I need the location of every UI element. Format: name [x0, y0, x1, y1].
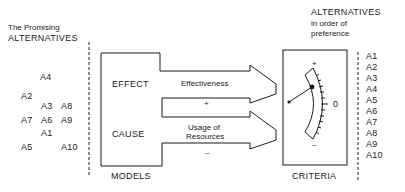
ranked-item-5: A5 — [366, 96, 378, 105]
alternative-a5: A5 — [21, 143, 33, 152]
alternative-a10: A10 — [61, 143, 78, 152]
gauge-minus-label: – — [312, 141, 316, 149]
models-box-and-arrows — [101, 53, 276, 166]
alternative-a2: A2 — [21, 92, 33, 101]
gauge-scale — [305, 68, 323, 139]
alternative-a4: A4 — [40, 73, 52, 82]
ranked-title-line3: preference — [311, 30, 349, 38]
ranked-item-2: A2 — [366, 63, 378, 72]
ranked-item-6: A6 — [366, 107, 378, 116]
ranked-title-line2: in order of — [311, 20, 347, 28]
cause-label: CAUSE — [112, 130, 145, 139]
alternative-a9: A9 — [61, 116, 73, 125]
usage-label-line2: Resources — [186, 133, 224, 141]
effect-label: EFFECT — [112, 80, 149, 89]
alternative-a3: A3 — [41, 102, 53, 111]
models-caption: MODELS — [111, 172, 151, 181]
promising-title-line2: ALTERNATIVES — [8, 34, 78, 43]
needle-pivot — [287, 100, 290, 103]
gauge-plus-label: + — [312, 60, 317, 68]
usage-label-line1: Usage of — [188, 124, 220, 132]
ranked-item-1: A1 — [366, 52, 378, 61]
alternative-a6: A6 — [41, 116, 53, 125]
ranked-title-line1: ALTERNATIVES — [311, 8, 381, 17]
effectiveness-label: Effectiveness — [181, 80, 228, 88]
gauge-zero-label: 0 — [333, 100, 338, 109]
needle-tip — [310, 85, 315, 90]
ranked-item-10: A10 — [366, 151, 383, 160]
gauge-ticks — [316, 74, 328, 134]
ranked-item-3: A3 — [366, 74, 378, 83]
alternative-a8: A8 — [61, 102, 73, 111]
promising-title-line1: The Promising — [8, 24, 60, 32]
ranked-item-4: A4 — [366, 85, 378, 94]
ranked-item-9: A9 — [366, 140, 378, 149]
alternative-a1: A1 — [41, 129, 53, 138]
ranked-item-7: A7 — [366, 118, 378, 127]
usage-minus-sign: – — [205, 149, 209, 157]
gauge-needle — [289, 87, 312, 102]
alternative-a7: A7 — [21, 116, 33, 125]
criteria-caption: CRITERIA — [292, 172, 336, 181]
ranked-item-8: A8 — [366, 129, 378, 138]
effectiveness-plus-sign: + — [204, 100, 209, 108]
